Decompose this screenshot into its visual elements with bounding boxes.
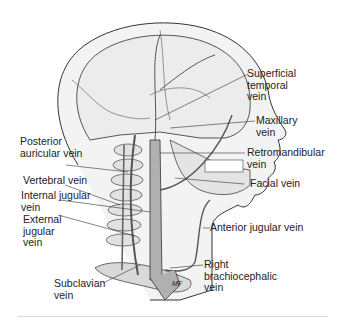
label-vertebral-vein: Vertebral vein — [23, 175, 87, 187]
label-subclavian-vein: Subclavian vein — [54, 278, 105, 301]
label-facial-vein: Facial vein — [250, 178, 300, 190]
label-superficial-temporal-vein: Superficial temporal vein — [247, 68, 296, 103]
artist-signature: MF — [172, 278, 182, 290]
label-external-jugular-vein: External jugular vein — [23, 214, 62, 249]
bottom-divider — [18, 316, 328, 317]
teeth — [205, 160, 243, 172]
label-anterior-jugular-vein: Anterior jugular vein — [210, 222, 303, 234]
label-maxillary-vein: Maxillary vein — [256, 115, 297, 138]
label-internal-jugular-vein: Internal jugular vein — [21, 190, 90, 213]
label-right-brachiocephalic-vein: Right brachiocephalic vein — [204, 259, 277, 294]
label-retromandibular-vein: Retromandibular vein — [247, 147, 325, 170]
label-posterior-auricular-vein: Posterior auricular vein — [20, 136, 82, 159]
internal-jugular-vein — [150, 140, 162, 280]
